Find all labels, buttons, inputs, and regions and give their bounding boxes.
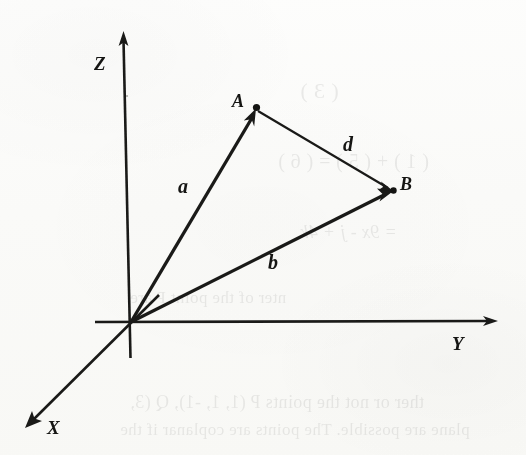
- y-axis: [95, 316, 498, 326]
- point-b-dot: [390, 187, 396, 193]
- z-axis-line: [124, 40, 131, 358]
- vector-label-d: d: [343, 134, 353, 154]
- point-label-a: A: [232, 92, 244, 110]
- axis-label-z: Z: [94, 54, 106, 73]
- figure-canvas: [0, 0, 526, 455]
- point-a-dot: [253, 104, 260, 111]
- x-axis: [25, 295, 159, 428]
- point-label-b: B: [400, 175, 412, 193]
- x-axis-line: [33, 295, 159, 420]
- vector-d-line: [258, 111, 388, 188]
- axis-label-y: Y: [452, 334, 464, 353]
- vector-label-a: a: [178, 176, 188, 196]
- z-axis: [119, 31, 131, 358]
- vector-d: [258, 111, 394, 192]
- y-axis-line: [95, 321, 489, 322]
- vector-diagram-figure: ( 3 ) ( 1 ) + ( 5 ) = ( 6 ) = 9x - j + 4…: [0, 0, 526, 455]
- scan-speck: [126, 95, 128, 97]
- vector-label-b: b: [268, 252, 278, 272]
- axis-label-x: X: [47, 418, 60, 437]
